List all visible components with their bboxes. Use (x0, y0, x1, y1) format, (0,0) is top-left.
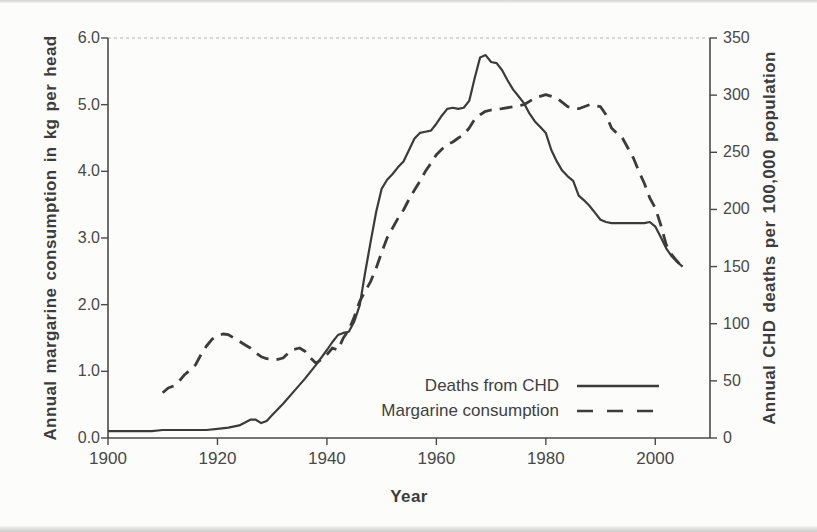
legend-row-margarine: Margarine consumption (381, 399, 660, 422)
x-tick-label-1900: 1900 (78, 450, 138, 468)
left-tick-label-2.0: 2.0 (60, 296, 100, 314)
legend-row-chd: Deaths from CHD (381, 374, 660, 397)
legend-line-solid (576, 382, 660, 390)
left-tick-label-3.0: 3.0 (60, 229, 100, 247)
series-line-margarine-consumption (163, 95, 683, 393)
left-tick-label-5.0: 5.0 (60, 96, 100, 114)
x-tick-label-1960: 1960 (406, 450, 466, 468)
left-tick-label-1.0: 1.0 (60, 362, 100, 380)
left-tick-label-4.0: 4.0 (60, 162, 100, 180)
legend: Deaths from CHD Margarine consumption (381, 374, 660, 422)
x-tick-label-1940: 1940 (297, 450, 357, 468)
legend-line-dashed (576, 407, 660, 415)
x-tick-label-2000: 2000 (625, 450, 685, 468)
right-tick-label-100: 100 (723, 315, 769, 333)
right-tick-label-250: 250 (723, 143, 769, 161)
chart-figure: Annual margarine consumption in kg per h… (0, 0, 817, 532)
right-tick-label-50: 50 (723, 372, 769, 390)
scan-artifact-top (0, 0, 817, 3)
right-axis-title: Annual CHD deaths per 100,000 population (760, 51, 780, 425)
left-axis-title: Annual margarine consumption in kg per h… (41, 35, 61, 440)
right-tick-label-0: 0 (723, 429, 769, 447)
legend-label-margarine-consumption: Margarine consumption (381, 401, 559, 421)
x-axis-title: Year (390, 487, 428, 507)
x-tick-label-1980: 1980 (516, 450, 576, 468)
scan-artifact-bottom (0, 526, 817, 532)
left-tick-label-0.0: 0.0 (60, 429, 100, 447)
x-tick-label-1920: 1920 (187, 450, 247, 468)
right-tick-label-350: 350 (723, 29, 769, 47)
left-tick-label-6.0: 6.0 (60, 29, 100, 47)
legend-label-deaths-from-chd: Deaths from CHD (425, 376, 559, 396)
right-tick-label-150: 150 (723, 258, 769, 276)
right-tick-label-300: 300 (723, 86, 769, 104)
right-tick-label-200: 200 (723, 200, 769, 218)
